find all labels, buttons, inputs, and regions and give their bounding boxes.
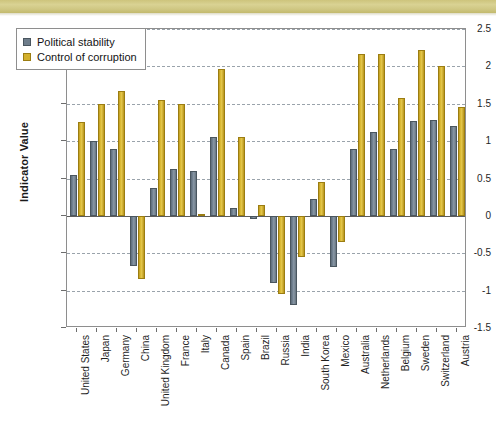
x-axis-tick-mark [396,328,397,332]
bar-political-stability [190,171,197,216]
bar-political-stability [410,121,417,216]
bar-political-stability [270,216,277,283]
gridline [67,179,465,180]
bar-control-of-corruption [238,137,245,216]
gridline [67,141,465,142]
x-axis-tick-label: South Korea [320,335,331,391]
y-axis-title: Indicator Value [18,92,30,232]
x-axis-tick-label: Australia [360,335,371,374]
bar-political-stability [330,216,337,268]
x-axis-tick-mark [336,328,337,332]
bar-control-of-corruption [358,54,365,215]
legend-item-political-stability: Political stability [23,34,137,49]
bar-political-stability [430,120,437,216]
bar-control-of-corruption [178,104,185,216]
x-axis-tick-mark [76,328,77,332]
bar-political-stability [110,149,117,216]
bar-political-stability [450,126,457,216]
bar-control-of-corruption [78,122,85,215]
bar-political-stability [130,216,137,266]
bar-control-of-corruption [218,69,225,216]
legend-label-control-of-corruption: Control of corruption [37,51,137,63]
x-axis-tick-label: Brazil [260,335,271,360]
bar-control-of-corruption [158,100,165,216]
x-axis-tick-label: France [180,335,191,366]
bar-control-of-corruption [198,214,205,216]
bar-control-of-corruption [378,54,385,215]
bar-political-stability [170,169,177,216]
x-axis-tick-label: China [140,335,151,361]
bar-control-of-corruption [318,182,325,216]
x-axis-tick-label: Spain [240,335,251,361]
x-axis-tick-mark [156,328,157,332]
gridline [67,216,465,217]
bar-control-of-corruption [438,66,445,216]
bar-political-stability [370,132,377,216]
bar-political-stability [210,137,217,215]
x-axis-tick-label: Japan [100,335,111,362]
x-axis-tick-mark [376,328,377,332]
bar-political-stability [310,199,317,215]
x-axis-tick-label: Netherlands [380,335,391,389]
bar-control-of-corruption [338,216,345,242]
x-axis-tick-mark [236,328,237,332]
x-axis-tick-mark [216,328,217,332]
bar-political-stability [230,208,237,215]
x-axis-tick-mark [296,328,297,332]
x-axis-tick-mark [316,328,317,332]
x-axis-tick-mark [456,328,457,332]
bar-control-of-corruption [458,107,465,215]
gridline [67,291,465,292]
legend-swatch-icon-political-stability [23,38,31,46]
bar-political-stability [90,141,97,216]
x-axis-tick-mark [176,328,177,332]
x-axis-tick-label: Mexico [340,335,351,367]
x-axis-tick-label: Switzerland [440,335,451,387]
top-decorative-banner [0,0,496,13]
x-axis-tick-mark [416,328,417,332]
x-axis-tick-label: Italy [200,335,211,353]
legend-item-control-of-corruption: Control of corruption [23,49,137,64]
bar-control-of-corruption [418,50,425,216]
bar-political-stability [150,188,157,216]
x-axis-tick-mark [196,328,197,332]
x-axis-tick-mark [436,328,437,332]
bar-control-of-corruption [98,104,105,216]
x-axis-tick-label: Germany [120,335,131,376]
x-axis-tick-label: United States [80,335,91,395]
x-axis-tick-label: India [300,335,311,357]
x-axis-tick-mark [136,328,137,332]
bar-control-of-corruption [398,98,405,216]
bar-political-stability [250,216,257,219]
legend-swatch-icon-control-of-corruption [23,53,31,61]
plot-area [66,28,466,327]
legend-label-political-stability: Political stability [37,36,115,48]
chart-legend: Political stability Control of corruptio… [16,28,146,70]
bar-political-stability [390,149,397,216]
gridline [67,253,465,254]
bar-control-of-corruption [298,216,305,257]
bar-political-stability [290,216,297,305]
bar-control-of-corruption [278,216,285,294]
x-axis-tick-label: United Kingdom [160,335,171,406]
bar-control-of-corruption [118,91,125,216]
bar-political-stability [350,149,357,216]
x-axis-tick-label: Russia [280,335,291,366]
x-axis-tick-mark [356,328,357,332]
bar-political-stability [70,175,77,216]
x-axis-tick-label: Canada [220,335,231,370]
x-axis-tick-label: Austria [460,335,471,366]
x-axis-tick-mark [276,328,277,332]
x-axis-tick-label: Sweden [420,335,431,371]
x-axis-tick-mark [116,328,117,332]
x-axis-tick-label-group: United StatesJapanGermanyChinaUnited Kin… [66,328,466,438]
x-axis-tick-mark [256,328,257,332]
bar-control-of-corruption [258,205,265,216]
bar-chart-figure: Indicator Value 2.521.510.50-0.5-1-1.5 P… [0,16,496,439]
x-axis-tick-label: Belgium [400,335,411,371]
bar-control-of-corruption [138,216,145,280]
gridline [67,104,465,105]
x-axis-tick-mark [96,328,97,332]
